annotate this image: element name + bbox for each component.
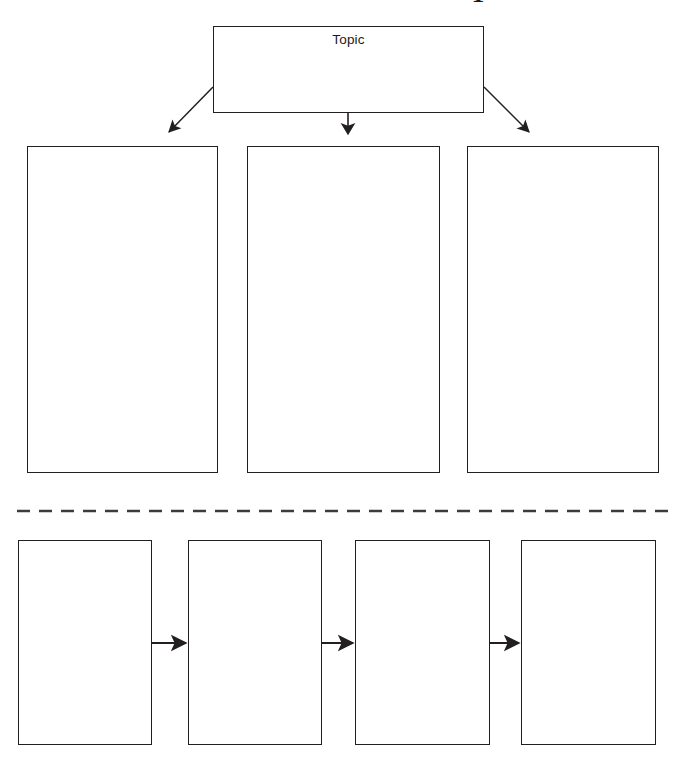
- sequence-box-3[interactable]: [355, 540, 490, 745]
- sequence-box-2[interactable]: [188, 540, 322, 745]
- connector-topic-to-branch-1: [169, 87, 213, 132]
- topic-box-label: Topic: [214, 33, 483, 48]
- branch-box-2[interactable]: [247, 146, 440, 473]
- graphic-organizer-canvas: T Topic: [0, 0, 679, 766]
- branch-box-3[interactable]: [467, 146, 659, 473]
- connector-topic-to-branch-3: [484, 87, 529, 132]
- topic-box[interactable]: Topic: [213, 26, 484, 113]
- sequence-box-1[interactable]: [18, 540, 152, 745]
- branch-box-1[interactable]: [27, 146, 218, 473]
- sequence-box-4[interactable]: [521, 540, 656, 745]
